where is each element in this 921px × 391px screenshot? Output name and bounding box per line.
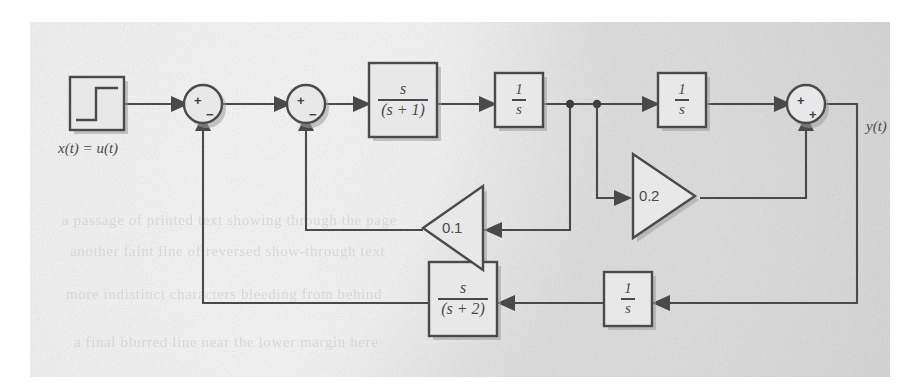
gain-0-2-label: 0.2 xyxy=(639,187,659,204)
tf2-label: s (s + 2) xyxy=(429,262,497,336)
int2-numerator: 1 xyxy=(675,82,689,98)
int3-label: 1 s xyxy=(604,272,652,326)
int3-denominator: s xyxy=(622,301,634,317)
int2-fraction: 1 s xyxy=(675,82,689,118)
sum3-plus-sign-lower: + xyxy=(809,108,817,121)
int1-numerator: 1 xyxy=(512,82,526,98)
int1-fraction: 1 s xyxy=(512,82,526,118)
int1-denominator: s xyxy=(513,102,525,118)
output-signal-label: y(t) xyxy=(866,118,887,135)
sum1-plus-sign: + xyxy=(194,94,202,107)
tf1-fraction: s (s + 1) xyxy=(378,81,428,119)
tf2-fraction: s (s + 2) xyxy=(438,280,488,318)
int3-fraction: 1 s xyxy=(621,281,635,317)
sum2-minus-sign: − xyxy=(309,108,317,121)
tf1-numerator: s xyxy=(397,81,409,98)
int2-denominator: s xyxy=(676,102,688,118)
tf2-denominator: (s + 2) xyxy=(438,301,488,318)
int1-label: 1 s xyxy=(495,73,543,127)
tf1-label: s (s + 1) xyxy=(369,63,437,137)
tf1-denominator: (s + 1) xyxy=(378,102,428,119)
int3-numerator: 1 xyxy=(621,281,635,297)
input-signal-label: x(t) = u(t) xyxy=(58,140,118,157)
int2-label: 1 s xyxy=(658,73,706,127)
sum3-plus-sign-upper: + xyxy=(797,94,805,107)
gain-0-1-label: 0.1 xyxy=(442,219,462,236)
sum2-plus-sign: + xyxy=(297,94,305,107)
sum1-minus-sign: − xyxy=(206,108,214,121)
figure-root: a passage of printed text showing throug… xyxy=(0,0,921,391)
tf2-numerator: s xyxy=(457,280,469,297)
